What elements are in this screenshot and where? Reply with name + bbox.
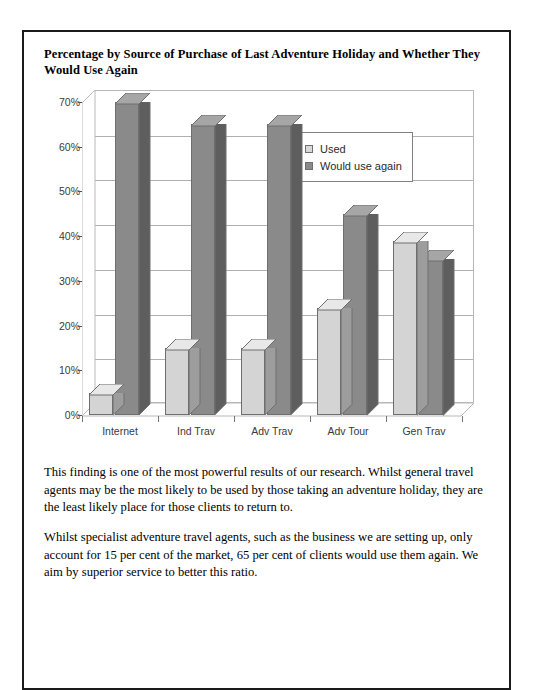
bar-top: [165, 337, 201, 348]
bar-adv-trav-used: [241, 348, 265, 415]
bar-internet-would-use-again: [115, 102, 139, 415]
x-axis-tick-mark: [310, 416, 311, 422]
bar-top: [89, 382, 125, 393]
light-gray-square-icon: [305, 145, 313, 153]
x-axis-tick-label: Gen Trav: [386, 425, 462, 437]
y-axis-tick-label: 0%: [34, 409, 80, 421]
x-axis-tick-label: Adv Trav: [234, 425, 310, 437]
y-axis-tick-label: 10%: [34, 364, 80, 376]
page-title: Percentage by Source of Purchase of Last…: [44, 46, 492, 78]
y-axis-tick-label: 60%: [34, 141, 80, 153]
legend-label: Used: [320, 143, 346, 155]
bar-face: [89, 393, 113, 415]
bar-gen-trav-used: [393, 241, 417, 415]
y-axis-tick-label: 50%: [34, 185, 80, 197]
bar-top: [317, 297, 353, 308]
x-axis-tick-mark: [386, 416, 387, 422]
plot-area: [82, 90, 474, 415]
bar-top: [241, 337, 277, 348]
bar-face: [317, 308, 341, 415]
bar-side: [443, 259, 454, 416]
legend-entry: Used: [305, 140, 402, 157]
chart-legend: UsedWould use again: [296, 132, 413, 182]
bar-side: [341, 308, 352, 415]
bar-side: [265, 348, 276, 415]
dark-gray-square-icon: [305, 162, 313, 170]
y-axis-tick-label: 30%: [34, 275, 80, 287]
y-axis-tick-label: 70%: [34, 96, 80, 108]
y-axis-tick-label: 40%: [34, 230, 80, 242]
bar-side: [291, 124, 302, 415]
bar-face: [115, 102, 139, 415]
bar-chart: 70%60%50%40%30%20%10%0% UsedWould use ag…: [34, 84, 489, 462]
y-axis: 70%60%50%40%30%20%10%0%: [34, 84, 80, 415]
legend-label: Would use again: [320, 160, 402, 172]
bar-top: [115, 91, 151, 102]
x-axis-tick-mark: [158, 416, 159, 422]
bar-face: [165, 348, 189, 415]
x-axis-tick-label: Adv Tour: [310, 425, 386, 437]
bar-side: [189, 348, 200, 415]
bar-ind-trav-used: [165, 348, 189, 415]
bar-side: [367, 214, 378, 415]
bar-adv-tour-used: [317, 308, 341, 415]
body-paragraph-1: This finding is one of the most powerful…: [44, 464, 492, 517]
x-axis-tick-mark: [234, 416, 235, 422]
bar-side: [139, 102, 150, 415]
bars-layer: [82, 90, 474, 416]
bar-face: [393, 241, 417, 415]
x-axis-tick-mark: [462, 416, 463, 422]
x-axis-tick-label: Ind Trav: [158, 425, 234, 437]
document-page: Percentage by Source of Purchase of Last…: [22, 30, 511, 690]
x-axis: InternetInd TravAdv TravAdv TourGen Trav: [82, 421, 474, 445]
x-axis-tick-label: Internet: [82, 425, 158, 437]
bar-top: [393, 230, 429, 241]
bar-internet-used: [89, 393, 113, 415]
bar-side: [215, 124, 226, 415]
bar-face: [241, 348, 265, 415]
y-axis-tick-label: 20%: [34, 320, 80, 332]
bar-top: [191, 113, 227, 124]
bar-top: [343, 203, 379, 214]
legend-entry: Would use again: [305, 157, 402, 174]
bar-side: [417, 241, 428, 415]
x-axis-tick-mark: [82, 416, 83, 422]
body-paragraph-2: Whilst specialist adventure travel agent…: [44, 529, 492, 582]
bar-side: [113, 393, 124, 415]
bar-top: [267, 113, 303, 124]
